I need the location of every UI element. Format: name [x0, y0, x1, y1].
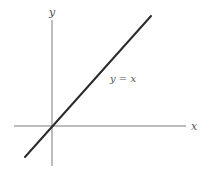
identity-line — [25, 16, 151, 157]
x-axis-label: x — [191, 120, 198, 133]
coordinate-plane: y x y = x — [0, 0, 212, 173]
y-axis-label: y — [48, 6, 56, 19]
curve-label: y = x — [109, 73, 136, 84]
